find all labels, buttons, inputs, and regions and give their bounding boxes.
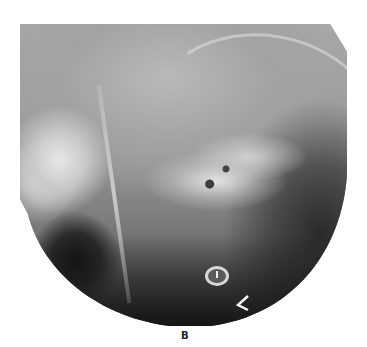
radiograph-image xyxy=(20,24,347,326)
figure: B xyxy=(0,0,367,347)
ring-center-mark xyxy=(216,271,218,278)
ear-ring-marker xyxy=(205,266,229,286)
arrowhead-icon xyxy=(235,294,251,312)
panel-label: B xyxy=(181,330,189,341)
